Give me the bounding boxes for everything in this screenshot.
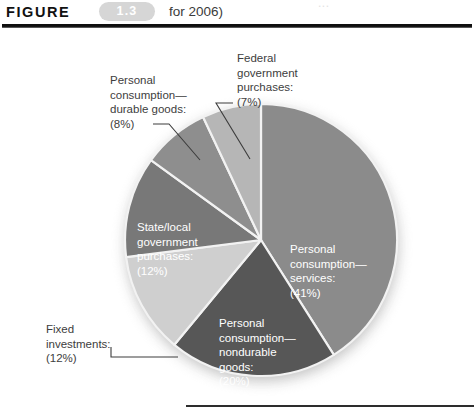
header-ghost-text: ... (318, 0, 330, 10)
callout-label-federal-government-purchases: Federal government purchases: (7%) (237, 51, 298, 109)
slice-label-personal-consumption-services: Personal consumption— services: (41%) (290, 242, 367, 300)
figure-header: FIGURE 1.3 for 2006) ... (0, 0, 474, 27)
figure-label: FIGURE (6, 4, 70, 20)
figure-caption: for 2006) (169, 4, 223, 19)
slice-label-state-local-government-purchases: State/local government purchases: (12%) (137, 220, 198, 278)
figure-page: FIGURE 1.3 for 2006) ... Personal consum… (0, 0, 474, 408)
slice-label-personal-consumption-nondurable-goods: Personal consumption— nondurable goods: … (219, 316, 296, 389)
callout-label-personal-consumption-durable-goods: Personal consumption— durable goods: (8%… (110, 73, 187, 131)
footer-divider (186, 405, 474, 407)
callout-label-fixed-investments: Fixed investments: (12%) (46, 322, 111, 366)
pie-chart: Personal consumption— services: (41%) Pe… (0, 27, 474, 408)
figure-number: 1.3 (99, 2, 155, 21)
figure-number-badge: 1.3 (99, 2, 155, 21)
